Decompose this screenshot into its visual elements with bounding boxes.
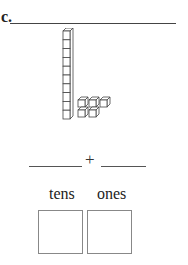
plus-sign: + <box>85 150 95 170</box>
ones-answer-box[interactable] <box>87 210 132 254</box>
tens-answer-blank[interactable] <box>29 166 82 167</box>
answer-line[interactable] <box>10 23 176 24</box>
ones-answer-blank[interactable] <box>101 166 146 167</box>
ones-cubes-icon <box>78 97 110 117</box>
tens-column-label: tens <box>49 185 75 203</box>
tens-rod-icon <box>63 28 73 119</box>
tens-answer-box[interactable] <box>38 210 83 254</box>
ones-column-label: ones <box>97 185 126 203</box>
base-ten-blocks <box>58 28 118 123</box>
